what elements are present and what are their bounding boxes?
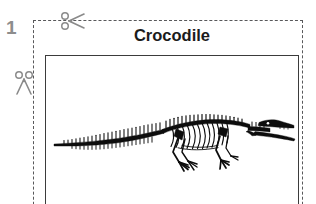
crocodile-skeleton-illustration bbox=[52, 96, 296, 180]
scissors-icon bbox=[59, 10, 89, 32]
scissors-icon bbox=[13, 69, 35, 99]
worksheet-card: 1 Crocodile bbox=[0, 0, 316, 204]
item-number: 1 bbox=[6, 18, 17, 37]
